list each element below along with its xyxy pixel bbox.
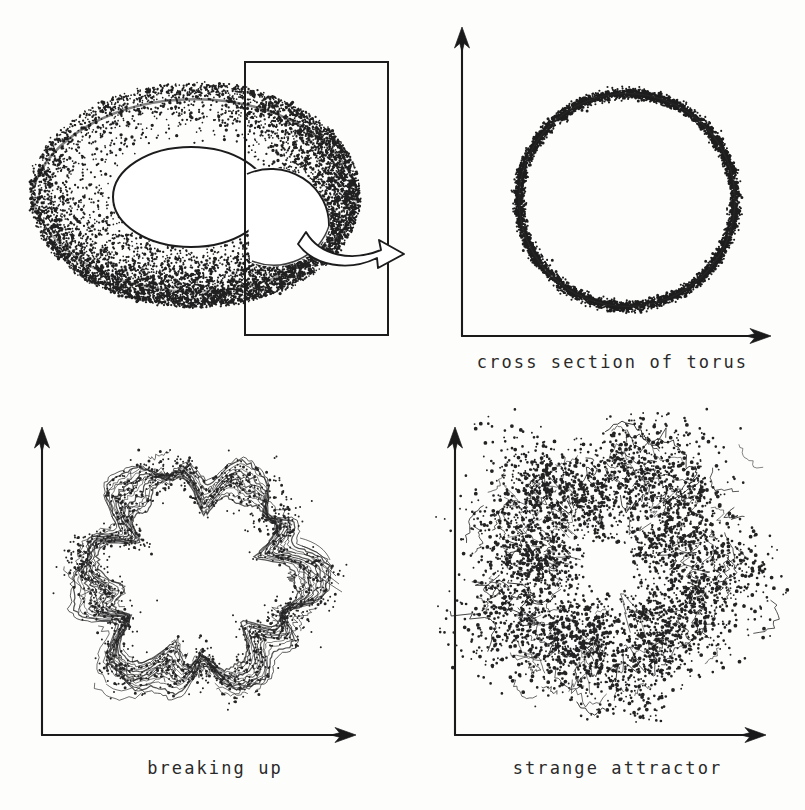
panel-strange-attractor [420,400,805,760]
breaking-up-fragment [123,648,168,662]
caption-strange-attractor: strange attractor [430,758,805,778]
cross-section-drawing [420,0,805,400]
strange-attractor-filament [513,680,537,699]
breaking-up-drawing [0,400,420,760]
caption-cross-section: cross section of torus [420,352,805,372]
strange-attractor-filament [526,618,540,640]
cross-section-axes [455,27,772,344]
strange-attractor-filament [575,507,587,515]
strange-attractor-filament [754,600,780,633]
strange-attractor-y-arrowhead [448,427,463,452]
cross-section-y-arrowhead [455,27,470,52]
breaking-up-fragment [94,683,141,700]
breaking-up-curve [53,449,348,711]
strange-attractor-filament [724,508,744,520]
figure-root: cross section of torus breaking up stran… [0,0,805,810]
strange-attractor-filament [499,527,505,539]
breaking-up-fragment [287,572,294,584]
strange-attractor-drawing [420,400,805,760]
cross-section-curve [511,85,744,314]
strange-attractor-axes [448,427,767,743]
panel-torus [0,0,420,400]
caption-breaking-up: breaking up [20,758,410,778]
strange-attractor-filament [609,479,623,484]
panel-cross-section [420,0,805,400]
strange-attractor-curve [435,408,789,723]
cross-section-x-arrowhead [746,329,771,344]
breaking-up-x-arrowhead [331,728,356,743]
cross-section-points [511,85,744,314]
strange-attractor-x-arrowhead [741,728,766,743]
breaking-up-y-arrowhead [35,427,50,452]
panel-breaking-up [0,400,420,760]
strange-attractor-filament [739,445,763,468]
torus-drawing [0,0,420,400]
strange-attractor-filament [472,582,501,602]
